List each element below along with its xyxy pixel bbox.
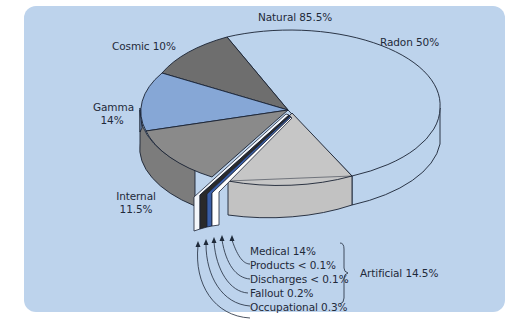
discharges-label: Discharges < 0.1%	[250, 273, 349, 286]
products-leader	[222, 240, 250, 279]
internal-label: Internal 11.5%	[113, 190, 159, 216]
fallout-leader	[206, 244, 250, 306]
internal-label-value: 11.5%	[113, 203, 159, 216]
gamma-label-value: 14%	[93, 114, 131, 127]
cosmic-label: Cosmic 10%	[112, 40, 176, 53]
medical-leader	[232, 240, 250, 264]
artificial-label: Artificial 14.5%	[360, 267, 438, 280]
radon-label: Radon 50%	[380, 36, 439, 49]
occupational-leader	[197, 246, 250, 318]
arrowheads	[196, 235, 235, 247]
products-label: Products < 0.1%	[250, 259, 336, 272]
gamma-label: Gamma 14%	[93, 101, 131, 127]
internal-label-name: Internal	[113, 190, 159, 203]
fallout-label: Fallout 0.2%	[250, 287, 313, 300]
natural-label: Natural 85.5%	[258, 11, 332, 24]
medical-label: Medical 14%	[250, 245, 316, 258]
discharges-leader	[214, 242, 248, 293]
gamma-label-name: Gamma	[93, 101, 131, 114]
occupational-label: Occupational 0.3%	[250, 301, 347, 314]
